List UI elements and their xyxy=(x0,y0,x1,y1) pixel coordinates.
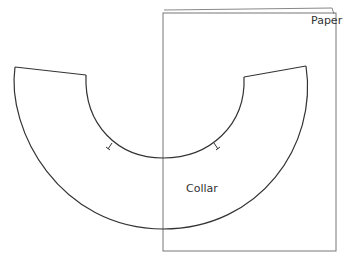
diagram-canvas xyxy=(0,0,349,267)
notch-right xyxy=(214,143,220,150)
paper-label: Paper xyxy=(311,15,342,26)
paper-sheet xyxy=(163,8,336,251)
collar-outer-edge xyxy=(14,66,308,229)
paper-rectangle xyxy=(163,13,336,251)
collar-inner-neckline xyxy=(86,75,244,158)
collar-label: Collar xyxy=(186,183,218,194)
collar-left-end-edge xyxy=(15,67,86,75)
collar-piece xyxy=(14,66,308,229)
notch-left xyxy=(106,143,112,150)
collar-right-end-edge xyxy=(244,66,306,77)
